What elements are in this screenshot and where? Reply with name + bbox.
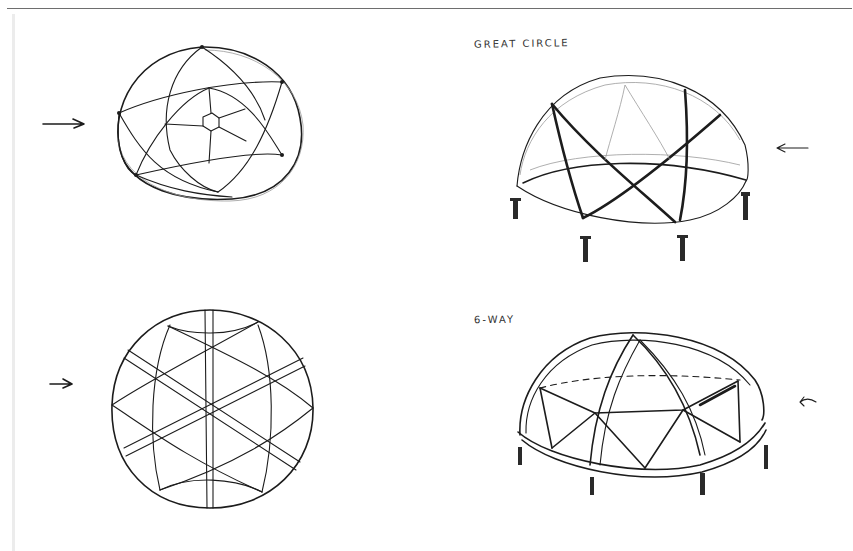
- arrow-right-icon: [50, 379, 72, 388]
- sketch-canvas: [0, 0, 853, 551]
- sketch-bottom-left-sphere: [112, 310, 313, 508]
- arrow-left-icon: [777, 144, 808, 152]
- sketch-great-circle-dome: [510, 76, 750, 262]
- sketch-six-way-dome: [518, 333, 768, 495]
- arrow-right-icon: [43, 119, 84, 128]
- sketch-top-left-sphere: [117, 45, 303, 201]
- arrow-left-icon: [800, 397, 816, 406]
